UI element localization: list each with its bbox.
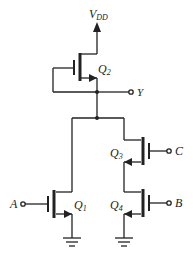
circuit-svg: VDD Q2 Y Q3 C A Q1 Q4 B: [0, 0, 193, 260]
ground-icon: [63, 238, 81, 246]
q4-source-arrow-icon: [124, 210, 132, 218]
q3-label: Q3: [110, 146, 123, 161]
q3-source-arrow-icon: [124, 158, 132, 166]
output-terminal-y: [129, 90, 133, 94]
output-label-y: Y: [137, 86, 145, 98]
ground-icon: [115, 238, 133, 246]
vdd-arrow-icon: [93, 22, 101, 32]
input-label-a: A: [9, 197, 18, 211]
input-terminal-c: [167, 149, 171, 153]
q1-label: Q1: [74, 198, 87, 213]
q2-source-arrow-icon: [89, 74, 97, 82]
vdd-label: VDD: [89, 7, 108, 22]
input-label-b: B: [175, 196, 183, 210]
junction-dot: [95, 116, 99, 120]
q2-label: Q2: [98, 62, 111, 77]
input-label-c: C: [175, 144, 184, 158]
junction-dot: [95, 90, 99, 94]
circuit-diagram: VDD Q2 Y Q3 C A Q1 Q4 B: [0, 0, 193, 260]
input-terminal-a: [21, 202, 25, 206]
q1-source-arrow-icon: [64, 210, 72, 218]
input-terminal-b: [167, 201, 171, 205]
q4-label: Q4: [110, 198, 123, 213]
